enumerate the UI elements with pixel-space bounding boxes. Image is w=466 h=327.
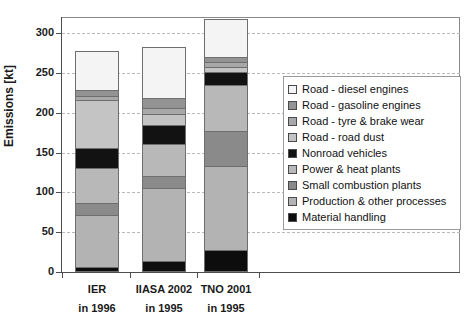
y-tick-mark-50 xyxy=(56,232,61,233)
y-tick-mark-300 xyxy=(56,33,61,34)
y-tick-label-0: 0 xyxy=(8,265,54,277)
x-tick-mark-origin xyxy=(62,273,63,278)
legend-label: Power & heat plants xyxy=(302,163,400,175)
legend-swatch-icon xyxy=(288,85,297,94)
y-tick-mark-0 xyxy=(56,272,61,273)
x-category-year: in 1995 xyxy=(171,302,281,314)
legend-item: Road - gasoline engines xyxy=(288,97,456,113)
y-tick-label-100: 100 xyxy=(8,185,54,197)
bar-segment xyxy=(142,144,186,176)
y-tick-label-50: 50 xyxy=(8,225,54,237)
bar-segment xyxy=(75,215,119,268)
legend-item: Power & heat plants xyxy=(288,161,456,177)
legend-swatch-icon xyxy=(288,117,297,126)
bar-ier xyxy=(75,51,119,272)
legend-swatch-icon xyxy=(288,133,297,142)
bar-segment xyxy=(75,148,119,169)
bar-segment xyxy=(142,176,186,188)
legend-item: Road - tyre & brake wear xyxy=(288,113,456,129)
emissions-stacked-bar-chart: Emissions [kt] 050100150200250300 IERin … xyxy=(0,0,466,327)
bar-segment xyxy=(204,131,248,166)
legend-swatch-icon xyxy=(288,101,297,110)
gridline-300 xyxy=(62,33,460,34)
legend-item: Road - road dust xyxy=(288,129,456,145)
legend-swatch-icon xyxy=(288,165,297,174)
x-tick-mark xyxy=(259,273,260,278)
bar-segment xyxy=(142,47,186,98)
x-axis-line xyxy=(61,272,460,273)
legend-label: Road - gasoline engines xyxy=(302,99,421,111)
legend-label: Road - diesel engines xyxy=(302,83,408,95)
bar-segment xyxy=(204,166,248,250)
legend-label: Production & other processes xyxy=(302,195,446,207)
legend-label: Material handling xyxy=(302,211,386,223)
x-category-name: TNO 2001 xyxy=(171,283,281,295)
legend-label: Road - tyre & brake wear xyxy=(302,115,424,127)
y-tick-label-300: 300 xyxy=(8,26,54,38)
bar-segment xyxy=(75,203,119,214)
x-category-label-2: TNO 2001in 1995 xyxy=(171,283,281,314)
legend-item: Production & other processes xyxy=(288,193,456,209)
bar-segment xyxy=(75,100,119,148)
legend-swatch-icon xyxy=(288,181,297,190)
bar-segment xyxy=(204,72,248,85)
bar-segment xyxy=(204,250,248,272)
bar-segment xyxy=(142,114,186,124)
bar-segment xyxy=(142,98,186,108)
bar-segment xyxy=(142,188,186,260)
bar-segment xyxy=(75,267,119,272)
legend-item: Small combustion plants xyxy=(288,177,456,193)
chart-legend: Road - diesel enginesRoad - gasoline eng… xyxy=(283,76,461,230)
bar-segment xyxy=(204,19,248,56)
y-axis-line xyxy=(61,17,62,273)
bar-segment xyxy=(142,261,186,272)
gridline-250 xyxy=(62,73,460,74)
bar-tno-2001 xyxy=(204,19,248,272)
y-tick-mark-200 xyxy=(56,113,61,114)
bar-segment xyxy=(75,51,119,90)
legend-item: Nonroad vehicles xyxy=(288,145,456,161)
bar-segment xyxy=(75,168,119,203)
legend-label: Road - road dust xyxy=(302,131,384,143)
bar-segment xyxy=(204,85,248,131)
y-tick-mark-150 xyxy=(56,153,61,154)
gridline-50 xyxy=(62,232,460,233)
bar-iiasa-2002 xyxy=(142,47,186,272)
y-tick-label-150: 150 xyxy=(8,146,54,158)
legend-swatch-icon xyxy=(288,197,297,206)
y-tick-label-250: 250 xyxy=(8,66,54,78)
legend-item: Material handling xyxy=(288,209,456,225)
legend-swatch-icon xyxy=(288,149,297,158)
bar-segment xyxy=(142,125,186,145)
x-tick-mark xyxy=(197,273,198,278)
legend-label: Small combustion plants xyxy=(302,179,421,191)
legend-label: Nonroad vehicles xyxy=(302,147,387,159)
x-tick-mark xyxy=(130,273,131,278)
y-tick-label-200: 200 xyxy=(8,106,54,118)
legend-item: Road - diesel engines xyxy=(288,81,456,97)
legend-swatch-icon xyxy=(288,213,297,222)
y-tick-mark-250 xyxy=(56,73,61,74)
y-tick-mark-100 xyxy=(56,192,61,193)
